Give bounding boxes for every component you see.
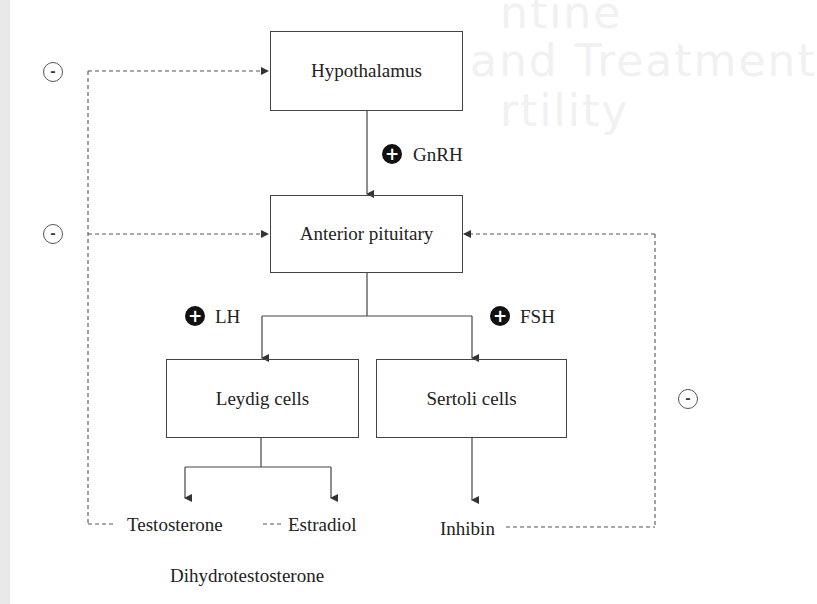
stimulate-plus-icon: + bbox=[185, 306, 205, 326]
gnrh-label: GnRH bbox=[413, 145, 463, 164]
inhibit-minus-icon: - bbox=[43, 224, 63, 244]
stimulate-plus-icon: + bbox=[490, 306, 510, 326]
stimulate-plus-icon: + bbox=[382, 144, 402, 164]
anterior-pituitary-box: Anterior pituitary bbox=[270, 195, 463, 273]
leydig-cells-box: Leydig cells bbox=[166, 359, 359, 438]
inhibit-minus-icon: - bbox=[678, 389, 698, 409]
inhibin-label: Inhibin bbox=[440, 519, 495, 538]
sertoli-cells-box: Sertoli cells bbox=[376, 359, 567, 438]
estradiol-label: Estradiol bbox=[288, 515, 357, 534]
testosterone-label: Testosterone bbox=[127, 515, 223, 534]
hypothalamus-box: Hypothalamus bbox=[270, 31, 463, 111]
inhibit-minus-icon: - bbox=[43, 62, 63, 82]
fsh-label: FSH bbox=[520, 307, 555, 326]
lh-label: LH bbox=[215, 307, 240, 326]
dihydrotestosterone-label: Dihydrotestosterone bbox=[170, 566, 324, 585]
